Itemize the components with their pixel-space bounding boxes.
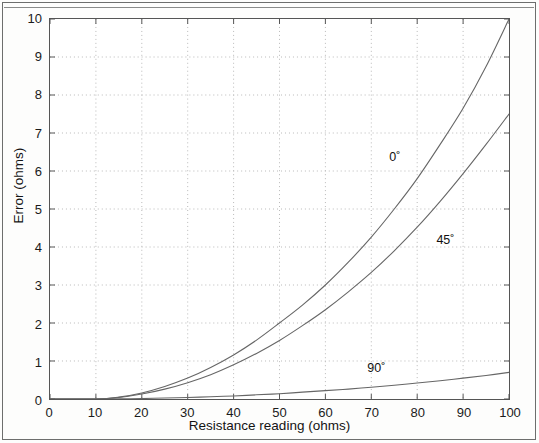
data-curves xyxy=(50,19,509,399)
y-axis-title: Error (ohms) xyxy=(11,121,26,251)
y-tick-label: 2 xyxy=(6,317,42,330)
series-label-0: 0˚ xyxy=(389,150,400,164)
plot-area xyxy=(49,18,510,400)
curve-series-1 xyxy=(50,114,509,399)
y-tick-label: 10 xyxy=(6,12,42,25)
page-border-inner-rule xyxy=(4,7,534,8)
y-tick-label: 8 xyxy=(6,88,42,101)
y-tick-label: 9 xyxy=(6,50,42,63)
series-label-2: 90˚ xyxy=(367,361,385,375)
y-tick-label: 3 xyxy=(6,279,42,292)
curve-series-0 xyxy=(50,19,509,399)
curve-series-2 xyxy=(50,372,509,399)
y-tick-label: 1 xyxy=(6,355,42,368)
x-axis-title: Resistance reading (ohms) xyxy=(0,418,539,433)
y-tick-label: 0 xyxy=(6,394,42,407)
figure-root: 109876543210 0102030405060708090100 0˚45… xyxy=(0,0,539,443)
series-label-1: 45˚ xyxy=(436,233,454,247)
